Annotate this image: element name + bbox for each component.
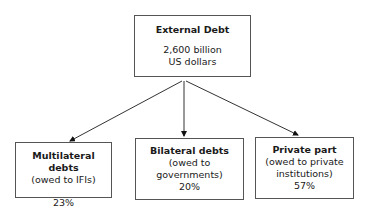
arrow-to-private xyxy=(186,81,298,135)
arrow-to-multilateral xyxy=(70,81,182,141)
multilateral-percent: 23% xyxy=(16,197,111,209)
external-debt-amount: 2,600 billion xyxy=(135,44,250,56)
external-debt-box: External Debt 2,600 billion US dollars xyxy=(134,15,251,77)
multilateral-desc: (owed to IFIs) xyxy=(16,174,111,186)
multilateral-title: Multilateral debts xyxy=(16,150,111,174)
private-title: Private part xyxy=(256,144,353,156)
private-part-box: Private part (owed to private institutio… xyxy=(255,137,354,199)
bilateral-percent: 20% xyxy=(136,181,243,193)
private-desc-1: (owed to private xyxy=(256,156,353,168)
private-desc-2: institutions) xyxy=(256,168,353,180)
private-percent: 57% xyxy=(256,180,353,192)
bilateral-debts-box: Bilateral debts (owed to governments) 20… xyxy=(135,138,244,200)
multilateral-debts-box: Multilateral debts (owed to IFIs) 23% xyxy=(15,142,112,198)
bilateral-title: Bilateral debts xyxy=(136,145,243,157)
external-debt-unit: US dollars xyxy=(135,56,250,68)
bilateral-desc-1: (owed to xyxy=(136,157,243,169)
bilateral-desc-2: governments) xyxy=(136,169,243,181)
external-debt-title: External Debt xyxy=(135,24,250,36)
